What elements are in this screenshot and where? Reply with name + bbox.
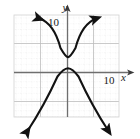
x-axis-label: x	[120, 71, 126, 83]
coordinate-plane-svg: 10 y 10 x	[0, 0, 140, 139]
y-axis-label: y	[62, 1, 68, 13]
x-axis-tick-label: 10	[104, 74, 116, 86]
y-axis-tick-label: 10	[48, 16, 60, 28]
graph-figure: 10 y 10 x	[0, 0, 140, 139]
